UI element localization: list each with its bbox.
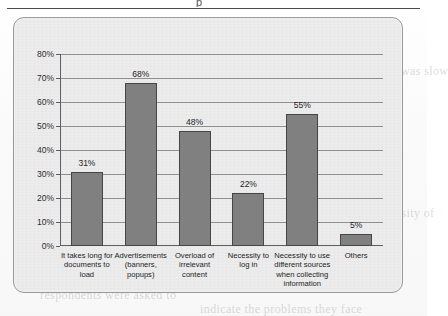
category-label-line: Others — [324, 251, 388, 260]
bar-value-label: 31% — [78, 158, 95, 168]
bar-slot: 31%It takes long fordocuments toload — [60, 54, 114, 246]
bar-slot: 5%Others — [329, 54, 383, 246]
bar-slot: 22%Necessity tolog in — [222, 54, 276, 246]
y-axis-tick-label: 20% — [37, 193, 54, 203]
y-axis-tick-label: 40% — [37, 145, 54, 155]
y-axis-tick-label: 50% — [37, 121, 54, 131]
category-label-line: content — [163, 270, 227, 279]
plot-area: 0%10%20%30%40%50%60%70%80% 31%It takes l… — [60, 54, 383, 246]
category-label-line: different sources — [270, 260, 334, 269]
bar-value-label: 68% — [132, 69, 149, 79]
bar[interactable] — [286, 114, 318, 246]
y-axis-tick-label: 60% — [37, 97, 54, 107]
y-axis-tick-label: 70% — [37, 73, 54, 83]
bar-slot: 48%Overload ofirrelevantcontent — [168, 54, 222, 246]
y-axis-tick-mark — [56, 246, 60, 247]
y-axis-tick-label: 0% — [42, 241, 54, 251]
bar-slot: 55%Necessity to usedifferent sourceswhen… — [275, 54, 329, 246]
y-axis-tick-label: 80% — [37, 49, 54, 59]
bar[interactable] — [232, 193, 264, 246]
bar[interactable] — [179, 131, 211, 246]
bar-slot: 68%Advertisements(banners,popups) — [114, 54, 168, 246]
bar-value-label: 55% — [294, 100, 311, 110]
bar-value-label: 5% — [350, 220, 362, 230]
top-horizontal-rule — [7, 8, 420, 9]
y-axis-tick-label: 30% — [37, 169, 54, 179]
bar[interactable] — [340, 234, 372, 246]
ghost-text-line: indicate the problems they face — [200, 302, 362, 316]
category-label-line: information — [270, 279, 334, 288]
category-label-line: when collecting — [270, 270, 334, 279]
x-axis-category-label: Others — [324, 251, 388, 260]
chart-frame: 0%10%20%30%40%50%60%70%80% 31%It takes l… — [13, 17, 403, 293]
bar-value-label: 48% — [186, 117, 203, 127]
cut-off-glyph: p — [196, 0, 205, 7]
bar[interactable] — [71, 172, 103, 246]
y-axis-tick-label: 10% — [37, 217, 54, 227]
bar-value-label: 22% — [240, 179, 257, 189]
bar[interactable] — [125, 83, 157, 246]
